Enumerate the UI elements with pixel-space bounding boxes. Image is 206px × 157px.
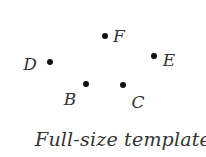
point-b-marker: [83, 81, 89, 87]
point-b-label: B: [64, 91, 77, 108]
point-d-marker: [47, 59, 53, 65]
point-c-label: C: [131, 94, 144, 111]
point-f-label: F: [113, 28, 125, 45]
point-d-label: D: [23, 56, 37, 73]
diagram-caption: Full-size template: [35, 130, 206, 149]
point-c-marker: [120, 82, 126, 88]
template-diagram: F D E B C Full-size template: [0, 0, 206, 157]
point-e-label: E: [163, 52, 175, 69]
point-f-marker: [102, 33, 108, 39]
point-e-marker: [151, 53, 157, 59]
